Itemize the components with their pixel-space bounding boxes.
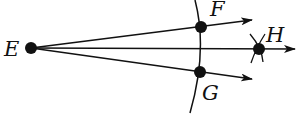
ray-eg <box>31 48 252 79</box>
point-f <box>195 21 207 33</box>
label-e: E <box>3 37 19 61</box>
arc-fg <box>190 0 200 113</box>
ray-ef <box>31 20 252 48</box>
label-g: G <box>202 81 219 105</box>
point-e <box>25 42 37 54</box>
point-h <box>253 43 265 55</box>
point-g <box>194 66 206 78</box>
label-h: H <box>265 23 285 47</box>
label-f: F <box>209 0 226 21</box>
diagram-canvas: E F G H <box>0 0 296 138</box>
